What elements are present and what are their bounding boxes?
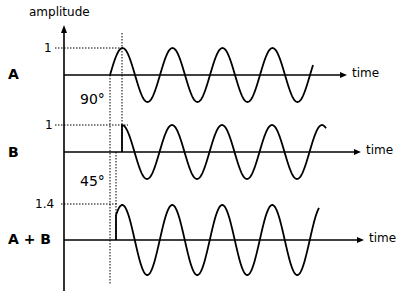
signal-sum-label: A + B xyxy=(8,232,51,246)
amplitude-tick-b: 1 xyxy=(45,119,53,131)
signal-a-label: A xyxy=(8,67,19,81)
waveforms xyxy=(110,48,326,275)
time-label-b: time xyxy=(366,144,393,156)
phase-diagram xyxy=(0,0,406,298)
time-arrow-icon xyxy=(340,72,347,78)
dotted-guides xyxy=(55,33,128,284)
time-axes xyxy=(64,72,364,243)
y-axis xyxy=(61,25,67,291)
signal-b-label: B xyxy=(8,145,19,159)
phase-angle-45: 45° xyxy=(80,174,105,188)
time-arrow-icon xyxy=(354,149,361,155)
y-axis-arrow-icon xyxy=(61,25,67,33)
amplitude-tick-a: 1 xyxy=(44,42,52,54)
time-label-a: time xyxy=(352,67,379,79)
y-axis-label: amplitude xyxy=(29,6,90,18)
amplitude-tick-sum: 1.4 xyxy=(35,198,54,210)
time-arrow-icon xyxy=(357,237,364,243)
time-label-sum: time xyxy=(369,232,396,244)
phase-angle-90: 90° xyxy=(80,92,105,106)
